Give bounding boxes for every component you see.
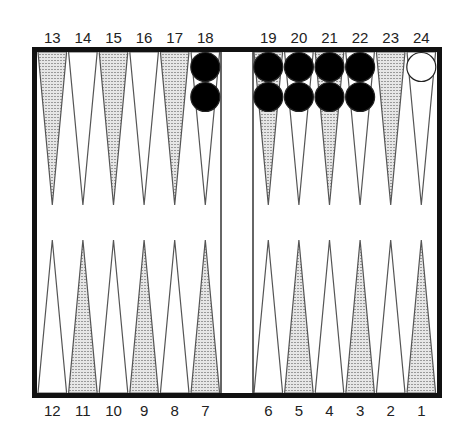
point-label: 4 <box>325 402 333 419</box>
point-14[interactable] <box>69 52 98 205</box>
point-15[interactable] <box>99 52 128 205</box>
point-label: 6 <box>264 402 272 419</box>
point-8[interactable] <box>160 240 189 393</box>
point-label: 14 <box>75 29 92 46</box>
point-label: 3 <box>356 402 364 419</box>
point-13[interactable] <box>38 52 67 205</box>
board-frame <box>35 50 440 396</box>
black-checker[interactable] <box>254 53 283 82</box>
point-5[interactable] <box>285 240 314 393</box>
point-3[interactable] <box>346 240 375 393</box>
point-4[interactable] <box>315 240 344 393</box>
point-1[interactable] <box>407 240 436 393</box>
point-label: 10 <box>105 402 122 419</box>
point-label: 18 <box>197 29 214 46</box>
point-7[interactable] <box>191 240 220 393</box>
point-label: 21 <box>321 29 338 46</box>
point-6[interactable] <box>254 240 283 393</box>
point-12[interactable] <box>38 240 67 393</box>
black-checker[interactable] <box>191 83 220 112</box>
black-checker[interactable] <box>315 53 344 82</box>
black-checker[interactable] <box>346 83 375 112</box>
point-label: 23 <box>382 29 399 46</box>
point-label: 5 <box>295 402 303 419</box>
black-checker[interactable] <box>191 53 220 82</box>
point-23[interactable] <box>376 52 405 205</box>
point-label: 11 <box>75 402 91 419</box>
point-10[interactable] <box>99 240 128 393</box>
black-checker[interactable] <box>254 83 283 112</box>
black-checker[interactable] <box>346 53 375 82</box>
point-label: 22 <box>352 29 369 46</box>
point-label: 12 <box>44 402 61 419</box>
black-checker[interactable] <box>284 83 313 112</box>
point-label: 2 <box>387 402 395 419</box>
point-9[interactable] <box>130 240 159 393</box>
point-label: 7 <box>201 402 209 419</box>
point-label: 19 <box>260 29 277 46</box>
point-label: 16 <box>136 29 153 46</box>
white-checker[interactable] <box>407 53 436 82</box>
point-label: 17 <box>166 29 183 46</box>
point-label: 20 <box>291 29 308 46</box>
point-label: 24 <box>413 29 430 46</box>
backgammon-board: 131415161718192021222324121110987654321 <box>0 0 462 442</box>
point-label: 15 <box>105 29 122 46</box>
black-checker[interactable] <box>315 83 344 112</box>
point-label: 9 <box>140 402 148 419</box>
point-17[interactable] <box>160 52 189 205</box>
point-11[interactable] <box>69 240 98 393</box>
point-label: 1 <box>417 402 425 419</box>
point-label: 13 <box>44 29 61 46</box>
point-label: 8 <box>171 402 179 419</box>
point-16[interactable] <box>130 52 159 205</box>
point-2[interactable] <box>376 240 405 393</box>
black-checker[interactable] <box>284 53 313 82</box>
